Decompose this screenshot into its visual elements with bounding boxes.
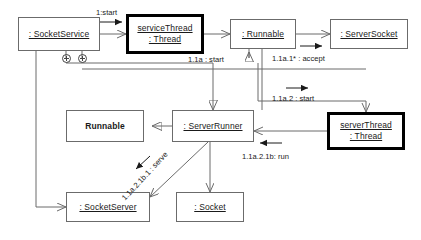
node-label-socketservice: : SocketService [29, 29, 90, 40]
node-socketserver[interactable]: : SocketServer [66, 192, 150, 222]
node-label-serversocket: : ServerSocket [340, 29, 397, 40]
node-label-servicethread-line2: : Thread [149, 34, 181, 45]
node-label-serverthread-line2: : Thread [350, 131, 382, 142]
node-serverthread[interactable]: serverThread : Thread [327, 112, 405, 150]
node-label-servicethread-line1: serviceThread [137, 23, 192, 34]
node-label-runnable-instance: : Runnable [242, 29, 284, 40]
node-serverrunner[interactable]: : ServerRunner [172, 110, 254, 142]
node-socket[interactable]: : Socket [176, 192, 244, 222]
node-socketservice[interactable]: : SocketService [18, 17, 100, 51]
link-socketservice-socketserver [36, 51, 66, 207]
circle-plus-icon-left [62, 54, 71, 63]
node-runnable-class[interactable]: Runnable [66, 110, 144, 142]
message-label-1-1a-start: 1.1a : start [188, 55, 224, 64]
link-runnable-serverthread [258, 63, 366, 112]
message-label-1-1a-1-accept: 1.1a.1* : accept [272, 54, 325, 63]
node-label-serverrunner: : ServerRunner [183, 121, 242, 132]
node-serversocket[interactable]: : ServerSocket [330, 19, 408, 49]
message-label-1-1a-2-1b-run: 1.1a.2.1b: run [242, 152, 289, 161]
message-label-1-1a-2-start: 1.1a.2 : start [272, 94, 314, 103]
node-runnable-instance[interactable]: : Runnable [230, 19, 296, 49]
message-label-1-start: 1:start [96, 8, 117, 17]
node-servicethread[interactable]: serviceThread : Thread [126, 14, 204, 54]
node-label-serverthread-line1: serverThread [340, 120, 392, 131]
link-create-serverrunner [66, 63, 213, 110]
node-label-socketserver: : SocketServer [79, 202, 136, 213]
uml-collaboration-diagram: : SocketService serviceThread : Thread :… [0, 0, 421, 240]
node-label-socket: : Socket [194, 202, 226, 213]
link-serverrunner-socketserver [150, 142, 208, 197]
circle-plus-icon-right [78, 54, 87, 63]
node-label-runnable-class: Runnable [85, 121, 125, 132]
